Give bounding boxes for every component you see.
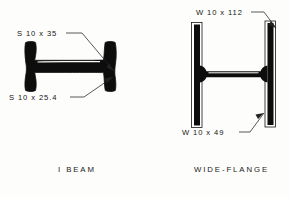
i-beam-figure: S 10 x 35 S 10 x 25.4 I BEAM (9, 29, 116, 174)
figure-caption-wide-flange: WIDE-FLANGE (194, 165, 269, 174)
wide-flange-figure: W 10 x 112 W 10 x 49 WIDE-FLANGE (182, 8, 276, 174)
wide-flange-left-flange-core (194, 25, 200, 126)
callout-label-s-10x35: S 10 x 35 (17, 29, 57, 38)
callout-label-s-10x25-4: S 10 x 25.4 (9, 93, 57, 102)
wide-flange-web (200, 66, 268, 83)
engineering-drawing-sheet: S 10 x 35 S 10 x 25.4 I BEAM (0, 0, 290, 197)
wide-flange-right-flange-core (268, 23, 274, 125)
callout-label-w-10x49: W 10 x 49 (182, 128, 224, 137)
leader-arrowhead-w-10x49 (256, 113, 265, 119)
figure-caption-i-beam: I BEAM (58, 165, 96, 174)
callout-label-w-10x112: W 10 x 112 (196, 8, 243, 17)
callout-w-10x112: W 10 x 112 (196, 8, 276, 28)
callout-s-10x25-4: S 10 x 25.4 (9, 77, 113, 102)
